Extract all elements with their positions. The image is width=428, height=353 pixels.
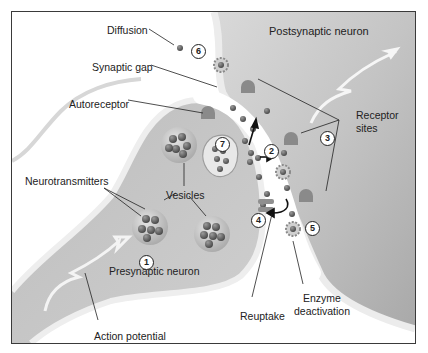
- step-marker-7: 7: [215, 137, 230, 152]
- step-marker-2: 2: [264, 144, 279, 159]
- label-receptor-sites-line1: Receptor: [356, 109, 399, 121]
- label-synaptic-gap: Synaptic gap: [92, 61, 153, 73]
- step-marker-4: 4: [251, 213, 266, 228]
- label-reuptake: Reuptake: [240, 310, 285, 322]
- label-enzyme-line2: deactivation: [292, 305, 352, 317]
- label-neurotransmitters: Neurotransmitters: [25, 175, 108, 187]
- step-marker-6: 6: [191, 44, 206, 59]
- label-autoreceptor: Autoreceptor: [69, 98, 129, 110]
- label-diffusion: Diffusion: [107, 24, 148, 36]
- vesicle: [194, 216, 230, 252]
- label-presynaptic-neuron: Presynaptic neuron: [109, 265, 199, 277]
- label-enzyme-line1: Enzyme: [299, 292, 345, 304]
- vesicle: [161, 127, 197, 163]
- label-postsynaptic-neuron: Postsynaptic neuron: [269, 25, 369, 37]
- label-action-potential: Action potential: [94, 330, 166, 342]
- step-marker-5: 5: [305, 221, 320, 236]
- vesicle: [132, 209, 168, 245]
- label-receptor-sites-line2: sites: [356, 122, 378, 134]
- label-vesicles: Vesicles: [166, 189, 205, 201]
- step-marker-1: 1: [139, 255, 154, 270]
- step-marker-3: 3: [320, 131, 335, 146]
- synapse-diagram: Diffusion Postsynaptic neuron Synaptic g…: [11, 11, 416, 344]
